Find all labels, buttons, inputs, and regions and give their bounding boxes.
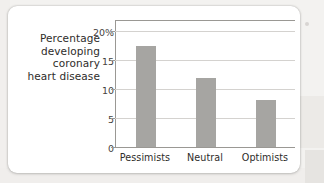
bars xyxy=(116,20,295,147)
y-tick-mark-20 xyxy=(111,31,115,32)
x-axis-tick-labels: PessimistsNeutralOptimists xyxy=(115,152,295,168)
page-edge-artifact-right-upper xyxy=(300,96,324,148)
plot-area xyxy=(115,20,295,148)
page-edge-artifact-right-lower xyxy=(305,150,324,183)
plot-baseline-axis xyxy=(115,147,295,148)
x-tick-label-neutral: Neutral xyxy=(187,152,223,163)
bar-neutral xyxy=(196,78,216,147)
y-tick-mark-15 xyxy=(111,60,115,61)
bar-optimists xyxy=(256,100,276,147)
x-tick-label-pessimists: Pessimists xyxy=(120,152,170,163)
x-tick-label-optimists: Optimists xyxy=(242,152,288,163)
page-speck-artifact xyxy=(305,22,309,26)
y-tick-label-0: 0 xyxy=(88,143,114,154)
y-tick-mark-10 xyxy=(111,89,115,90)
y-tick-mark-5 xyxy=(111,118,115,119)
bar-pessimists xyxy=(136,46,156,147)
chart-card: Percentage developing coronary heart dis… xyxy=(8,6,300,173)
